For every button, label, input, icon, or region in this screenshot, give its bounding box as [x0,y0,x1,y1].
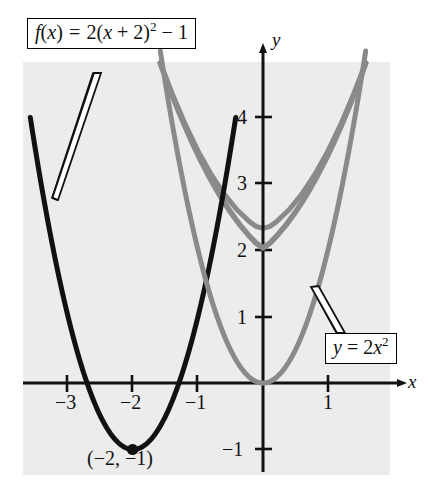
y-label-x: x [373,336,382,358]
x-tick-label-neg3: −3 [55,392,76,412]
x-tick-label-neg1: −1 [185,392,206,412]
f-label-inner-var: x [103,21,112,43]
y-tick-label-4: 4 [237,107,247,127]
f-box-leader [53,73,102,200]
x-tick-label-neg2: −2 [120,392,141,412]
f-label-close: ) [56,21,63,43]
f-label-minus: − [162,21,173,43]
y-label-exponent: 2 [382,334,389,349]
f-label-equals: = [69,21,80,43]
true-plot [0,0,432,495]
f-label-const: 1 [178,21,188,43]
x-tick-label-pos1: 1 [323,392,333,412]
y-label-equals: = [347,336,358,358]
f-label-var: x [47,21,56,43]
figure-container: f(x) = 2(x + 2)2 − 1 y = 2x2 (−2, −1) y … [0,0,432,495]
y-axis-label: y [272,30,280,49]
y-tick-label-neg1: −1 [222,439,243,459]
y-tick-label-1: 1 [237,307,247,327]
y-tick-label-3: 3 [237,173,247,193]
y-box-leader [311,286,345,333]
f-of-x-label-box: f(x) = 2(x + 2)2 − 1 [27,18,196,49]
f-label-plus: + [117,21,128,43]
y-label-var: y [333,336,342,358]
f-label-exponent: 2 [150,19,157,34]
y-equals-2x-squared-label-box: y = 2x2 [325,333,397,364]
f-label-shift: 2) [133,21,150,43]
y-tick-label-2: 2 [237,240,247,260]
y-label-coef: 2 [363,336,373,358]
vertex-coordinate-label: (−2, −1) [87,448,153,468]
x-axis-label: x [408,372,416,391]
f-label-coef: 2( [86,21,103,43]
